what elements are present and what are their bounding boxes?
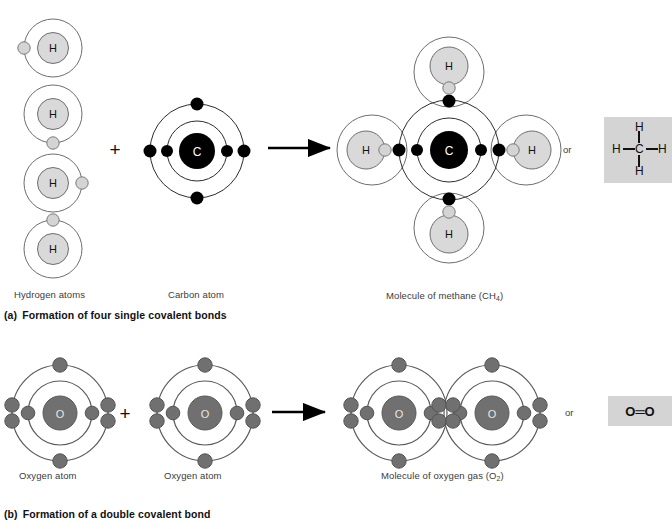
plus-sign-b: + <box>119 403 130 424</box>
o2-left-outer-left-lower <box>344 414 358 428</box>
o2-shared-electron-2 <box>446 398 460 412</box>
o2-left-outer-bottom <box>392 454 406 468</box>
label-oxygen-atom-1: Oxygen atom <box>19 470 77 481</box>
label-oxygen-tail: ) <box>500 470 503 481</box>
formula-h-bottom: H <box>635 164 644 178</box>
figure-root: H H H H + C <box>0 0 672 529</box>
bond-electron-hydrogen-right <box>507 144 519 156</box>
oxygen2-outer-electron-right-upper <box>246 398 260 412</box>
hydrogen-label-4: H <box>49 243 57 255</box>
oxygen2-inner-electron-right <box>230 406 244 420</box>
oxygen-atom-1: O <box>5 358 115 468</box>
oxygen-molecule: O O <box>344 358 547 468</box>
oxygen1-outer-electron-left-upper <box>5 398 19 412</box>
methane-structural-formula-box: H H C H H <box>604 117 672 183</box>
hydrogen-label-3: H <box>49 177 57 189</box>
oxygen-atom-2: O <box>150 358 260 468</box>
oxygen-formula-text: O═O <box>608 396 672 426</box>
carbon-outer-electron-right <box>238 145 251 158</box>
carbon-inner-electron-right <box>221 145 233 157</box>
o2-left-outer-left-upper <box>344 398 358 412</box>
methane-hydrogen-label-right: H <box>528 144 536 156</box>
carbon-atom: C <box>144 98 251 205</box>
o2-label-right: O <box>488 408 497 420</box>
or-word-b: or <box>565 407 573 418</box>
label-methane-tail: ) <box>500 290 503 301</box>
oxygen2-outer-electron-left-upper <box>150 398 164 412</box>
o2-label-left: O <box>395 408 404 420</box>
oxygen2-inner-electron-left <box>166 406 180 420</box>
panel-b-caption-text: Formation of a double covalent bond <box>23 508 211 520</box>
panel-a-caption: (a)Formation of four single covalent bon… <box>4 309 227 321</box>
oxygen1-outer-electron-top <box>53 358 67 372</box>
hydrogen-label-2: H <box>49 108 57 120</box>
o2-shared-electron-4 <box>446 414 460 428</box>
hydrogen-atom-3: H <box>24 154 88 212</box>
o2-left-outer-top <box>392 358 406 372</box>
oxygen1-outer-electron-right-lower <box>101 414 115 428</box>
methane-hydrogen-label-top: H <box>445 60 453 72</box>
oxygen2-outer-electron-right-lower <box>246 414 260 428</box>
oxygen1-outer-electron-right-upper <box>101 398 115 412</box>
o2-right-outer-top <box>485 358 499 372</box>
o2-right-outer-right-lower <box>533 414 547 428</box>
carbon-outer-electron-left <box>144 145 157 158</box>
oxygen1-outer-electron-left-lower <box>5 414 19 428</box>
bond-electron-carbon-right <box>493 144 506 157</box>
carbon-label: C <box>193 145 202 159</box>
o2-shared-electron-1 <box>432 398 446 412</box>
oxygen-label-2: O <box>201 408 210 420</box>
panel-b-caption: (b)Formation of a double covalent bond <box>4 508 211 520</box>
label-oxygen-molecule: Molecule of oxygen gas (O2) <box>381 470 504 482</box>
label-methane-molecule: Molecule of methane (CH4) <box>386 290 503 302</box>
methane-carbon-inner-electron-right <box>475 144 487 156</box>
bond-electron-carbon-bottom <box>443 193 456 206</box>
oxygen2-outer-electron-top <box>198 358 212 372</box>
oxygen2-outer-electron-left-lower <box>150 414 164 428</box>
bond-electron-carbon-top <box>443 95 456 108</box>
hydrogen-atom-4: H <box>24 214 82 278</box>
hydrogen-electron-1 <box>18 42 30 54</box>
o2-right-inner-electron-right <box>517 406 531 420</box>
plus-sign-a: + <box>109 139 120 160</box>
label-methane-text: Molecule of methane (CH <box>386 290 496 301</box>
methane-carbon-inner-electron-left <box>411 144 423 156</box>
formula-h-right: H <box>658 142 667 156</box>
formula-bond-left <box>623 148 635 150</box>
oxygen1-inner-electron-left <box>21 406 35 420</box>
bond-electron-hydrogen-top <box>443 82 455 94</box>
panel-a-letter: (a) <box>4 309 17 321</box>
oxygen1-outer-electron-bottom <box>53 454 67 468</box>
hydrogen-electron-4 <box>47 214 59 226</box>
formula-c-center: C <box>635 142 644 156</box>
formula-bond-right <box>646 148 658 150</box>
oxygen1-inner-electron-right <box>85 406 99 420</box>
formula-h-left: H <box>612 142 621 156</box>
label-oxygen-text: Molecule of oxygen gas (O <box>381 470 497 481</box>
o2-right-outer-right-upper <box>533 398 547 412</box>
label-oxygen-atom-2: Oxygen atom <box>164 470 222 481</box>
bond-electron-hydrogen-left <box>379 144 391 156</box>
carbon-outer-electron-top <box>191 98 204 111</box>
covalent-bond-diagram: H H H H + C <box>0 0 672 529</box>
hydrogen-label-1: H <box>49 42 57 54</box>
panel-b-letter: (b) <box>4 508 18 520</box>
bond-electron-hydrogen-bottom <box>443 206 455 218</box>
hydrogen-electron-2 <box>47 137 59 149</box>
oxygen-label-1: O <box>56 408 65 420</box>
carbon-outer-electron-bottom <box>191 192 204 205</box>
o2-right-outer-bottom <box>485 454 499 468</box>
methane-hydrogen-label-bottom: H <box>445 228 453 240</box>
methane-hydrogen-label-left: H <box>362 144 370 156</box>
methane-molecule: H H H H C <box>337 37 561 263</box>
label-hydrogen-atoms: Hydrogen atoms <box>14 289 85 300</box>
bond-electron-carbon-left <box>393 144 406 157</box>
oxygen2-outer-electron-bottom <box>198 454 212 468</box>
label-carbon-atom: Carbon atom <box>168 289 224 300</box>
hydrogen-electron-3 <box>76 177 88 189</box>
o2-shared-electron-3 <box>432 414 446 428</box>
o2-left-inner-electron-left <box>360 406 374 420</box>
carbon-inner-electron-left <box>161 145 173 157</box>
panel-a-caption-text: Formation of four single covalent bonds <box>22 309 227 321</box>
hydrogen-atom-1: H <box>18 19 82 77</box>
